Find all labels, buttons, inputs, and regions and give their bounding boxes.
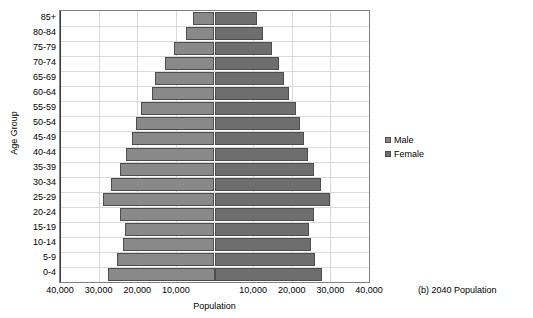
y-axis-tick-label: 75-79 <box>12 43 56 52</box>
bar-male[interactable] <box>193 12 215 25</box>
bar-row <box>60 147 369 162</box>
bar-row <box>60 252 369 267</box>
bar-female[interactable] <box>215 193 330 206</box>
legend-item-female[interactable]: Female <box>385 147 465 161</box>
bar-female[interactable] <box>215 268 322 281</box>
bar-female[interactable] <box>215 57 279 70</box>
legend-label: Male <box>394 136 414 145</box>
bar-row <box>60 71 369 86</box>
bar-male[interactable] <box>103 193 214 206</box>
y-axis-tick-label: 55-59 <box>12 103 56 112</box>
bar-male[interactable] <box>125 223 215 236</box>
y-axis-tick-label: 30-34 <box>12 178 56 187</box>
bar-female[interactable] <box>215 223 310 236</box>
y-axis-tick-label: 85+ <box>12 13 56 22</box>
y-axis-tick-label: 45-49 <box>12 133 56 142</box>
bar-male[interactable] <box>120 208 215 221</box>
bar-row <box>60 56 369 71</box>
bar-male[interactable] <box>155 72 214 85</box>
y-axis-tick-label: 80-84 <box>12 28 56 37</box>
bar-row <box>60 162 369 177</box>
bar-row <box>60 41 369 56</box>
bar-female[interactable] <box>215 27 263 40</box>
bar-male[interactable] <box>165 57 215 70</box>
bar-row <box>60 237 369 252</box>
legend-swatch-female-icon <box>385 151 391 157</box>
bar-male[interactable] <box>126 148 214 161</box>
bar-row <box>60 131 369 146</box>
bar-row <box>60 207 369 222</box>
y-axis-tick-label: 25-29 <box>12 193 56 202</box>
bar-male[interactable] <box>120 163 215 176</box>
bar-female[interactable] <box>215 163 315 176</box>
bar-row <box>60 222 369 237</box>
bar-female[interactable] <box>215 208 315 221</box>
bar-female[interactable] <box>215 102 296 115</box>
bar-female[interactable] <box>215 238 312 251</box>
y-axis-tick-label: 20-24 <box>12 208 56 217</box>
bar-female[interactable] <box>215 132 304 145</box>
y-axis-tick-label: 70-74 <box>12 58 56 67</box>
legend-item-male[interactable]: Male <box>385 133 465 147</box>
bar-male[interactable] <box>174 42 215 55</box>
y-axis-tick-label: 0-4 <box>12 268 56 277</box>
bar-row <box>60 192 369 207</box>
y-axis-tick-label: 60-64 <box>12 88 56 97</box>
bar-male[interactable] <box>111 178 215 191</box>
y-axis-tick-labels: 85+80-8475-7970-7465-6960-6455-5950-5445… <box>12 10 56 283</box>
bar-male[interactable] <box>141 102 214 115</box>
bar-male[interactable] <box>152 87 215 100</box>
population-pyramid-figure: Age Group 85+80-8475-7970-7465-6960-6455… <box>0 0 533 318</box>
bar-male[interactable] <box>186 27 215 40</box>
plot-area <box>59 10 370 283</box>
figure-caption: (b) 2040 Population <box>418 285 497 296</box>
bar-female[interactable] <box>215 42 272 55</box>
bar-male[interactable] <box>132 132 214 145</box>
bar-row <box>60 267 369 282</box>
y-axis-tick-label: 50-54 <box>12 118 56 127</box>
y-axis-tick-label: 40-44 <box>12 148 56 157</box>
bar-row <box>60 86 369 101</box>
y-axis-tick-label: 65-69 <box>12 73 56 82</box>
bar-male[interactable] <box>108 268 214 281</box>
legend-swatch-male-icon <box>385 137 391 143</box>
y-axis-tick-label: 5-9 <box>12 253 56 262</box>
bar-row <box>60 177 369 192</box>
bar-male[interactable] <box>136 117 214 130</box>
center-axis-line <box>60 11 61 282</box>
bar-male[interactable] <box>123 238 215 251</box>
gridline-vertical <box>369 11 370 282</box>
chart-legend: MaleFemale <box>385 133 465 161</box>
bar-female[interactable] <box>215 253 315 266</box>
bar-female[interactable] <box>215 72 285 85</box>
x-axis-tick-label: 40,000 <box>341 285 397 296</box>
bar-female[interactable] <box>215 178 322 191</box>
bar-row <box>60 26 369 41</box>
x-axis-tick-label: 10,000 <box>148 285 204 296</box>
y-axis-tick-label: 35-39 <box>12 163 56 172</box>
y-axis-tick-label: 15-19 <box>12 223 56 232</box>
bar-female[interactable] <box>215 87 290 100</box>
bar-row <box>60 116 369 131</box>
bar-row <box>60 11 369 26</box>
bar-female[interactable] <box>215 12 257 25</box>
y-axis-tick-label: 10-14 <box>12 238 56 247</box>
legend-label: Female <box>394 150 424 159</box>
x-axis-title: Population <box>59 301 370 311</box>
bar-female[interactable] <box>215 148 308 161</box>
bar-female[interactable] <box>215 117 301 130</box>
bar-row <box>60 101 369 116</box>
bar-male[interactable] <box>117 253 214 266</box>
